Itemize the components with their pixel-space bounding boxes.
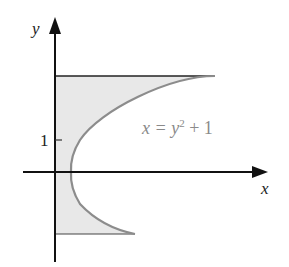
equation-label: x = y2 + 1 <box>141 117 213 138</box>
graph: 1 y x x = y2 + 1 <box>0 0 289 267</box>
shaded-region <box>55 76 215 234</box>
y-tick-label: 1 <box>40 131 49 150</box>
x-axis-arrow-icon <box>252 166 268 178</box>
y-axis-label: y <box>30 19 40 38</box>
x-axis-label: x <box>260 179 269 198</box>
y-axis-arrow-icon <box>49 17 61 34</box>
